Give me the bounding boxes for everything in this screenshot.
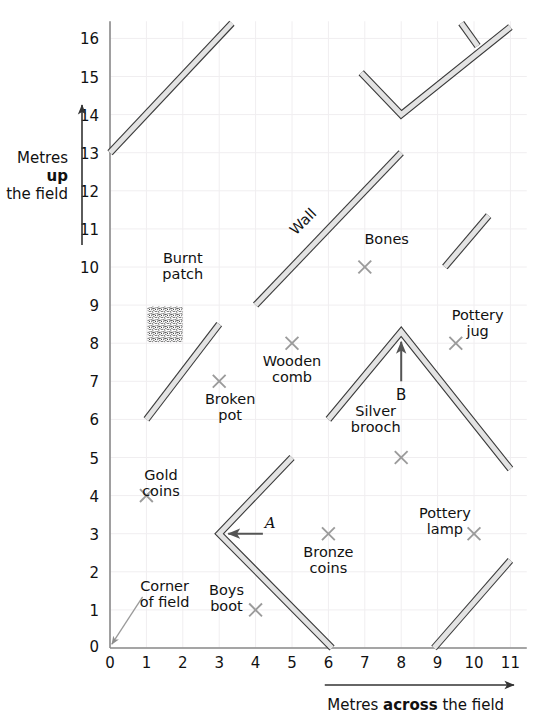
find-label: Wooden bbox=[263, 353, 322, 369]
x-tick-label: 4 bbox=[251, 654, 261, 672]
y-origin-label: 0 bbox=[89, 638, 99, 656]
find-label: pot bbox=[218, 407, 242, 423]
x-tick-label: 6 bbox=[324, 654, 334, 672]
find-label: Boys bbox=[209, 582, 244, 598]
find-pottery-lamp: Potterylamp bbox=[419, 505, 480, 540]
wall-bottom-right-fill bbox=[434, 560, 510, 648]
find-label: Pottery bbox=[452, 307, 504, 323]
find-label: coins bbox=[142, 483, 180, 499]
find-bronze-coins: Bronzecoins bbox=[303, 527, 353, 575]
find-silver-brooch: Silverbrooch bbox=[351, 403, 408, 464]
wall-small-top bbox=[461, 23, 477, 46]
y-tick-label: 6 bbox=[89, 411, 99, 429]
x-tick-label: 11 bbox=[501, 654, 520, 672]
wall-vee-top-outline bbox=[361, 27, 510, 115]
x-axis-caption-text: Metres across the field bbox=[327, 696, 504, 714]
find-label: Broken bbox=[205, 391, 255, 407]
y-tick-label: 4 bbox=[89, 488, 99, 506]
find-label: coins bbox=[310, 560, 348, 576]
corner-of-field: Cornerof field bbox=[112, 578, 190, 644]
y-axis-caption: Metresupthe field bbox=[6, 105, 82, 245]
y-axis-caption-line: up bbox=[47, 167, 69, 185]
find-label: boot bbox=[210, 598, 243, 614]
find-label: Burnt bbox=[163, 250, 203, 266]
y-axis-caption-line: Metres bbox=[17, 149, 68, 167]
wall-bottom-right bbox=[434, 560, 510, 648]
x-tick-label: 5 bbox=[287, 654, 297, 672]
y-tick-label: 1 bbox=[89, 602, 99, 620]
marker-label-A: A bbox=[263, 514, 276, 532]
x-tick-label: 1 bbox=[142, 654, 152, 672]
marker-label-B: B bbox=[396, 386, 406, 404]
find-label: Bronze bbox=[303, 544, 353, 560]
find-label: Pottery bbox=[419, 505, 471, 521]
y-tick-label: 3 bbox=[89, 526, 99, 544]
find-burnt-patch: Burntpatch bbox=[148, 250, 204, 342]
x-tick-label: 10 bbox=[464, 654, 483, 672]
marker-B: B bbox=[396, 342, 406, 405]
y-tick-label: 15 bbox=[80, 69, 99, 87]
point-markers: AB bbox=[228, 342, 406, 534]
field-plan-figure: 01234567891011123456789101112131415160Me… bbox=[0, 0, 559, 727]
annotation-label: Corner bbox=[140, 578, 189, 594]
annotations: Cornerof field bbox=[112, 578, 190, 644]
x-tick-label: 2 bbox=[178, 654, 188, 672]
burnt-patch-area bbox=[148, 306, 183, 342]
y-tick-label: 5 bbox=[89, 450, 99, 468]
x-tick-label: 0 bbox=[105, 654, 115, 672]
wall-right-upper bbox=[445, 216, 489, 267]
y-tick-label: 7 bbox=[89, 373, 99, 391]
find-label: patch bbox=[162, 266, 203, 282]
corner-pointer-arrow bbox=[112, 597, 143, 644]
find-label: Silver bbox=[355, 403, 396, 419]
x-tick-label: 9 bbox=[433, 654, 443, 672]
wall-small-top-fill bbox=[461, 23, 477, 46]
find-boys-boot: Boysboot bbox=[209, 582, 262, 617]
annotation-label: of field bbox=[140, 594, 190, 610]
find-label: brooch bbox=[351, 419, 401, 435]
find-label: Bones bbox=[364, 231, 408, 247]
find-gold-coins: Goldcoins bbox=[140, 467, 180, 502]
wall-vee-B-fill bbox=[328, 332, 510, 469]
y-tick-label: 10 bbox=[80, 259, 99, 277]
y-tick-label: 9 bbox=[89, 297, 99, 315]
find-label: Gold bbox=[144, 467, 177, 483]
x-tick-label: 7 bbox=[360, 654, 370, 672]
wall-top-left-fill bbox=[110, 23, 232, 153]
y-tick-label: 16 bbox=[80, 30, 99, 48]
x-axis-tick-labels: 01234567891011 bbox=[105, 654, 520, 672]
field-plan-svg: 01234567891011123456789101112131415160Me… bbox=[0, 0, 559, 727]
y-tick-label: 2 bbox=[89, 564, 99, 582]
x-tick-label: 3 bbox=[214, 654, 224, 672]
finds: BurntpatchBrokenpotGoldcoinsBoysbootWood… bbox=[140, 231, 504, 616]
x-axis-caption: Metres across the field bbox=[325, 685, 514, 714]
y-tick-label: 8 bbox=[89, 335, 99, 353]
wall-top-left bbox=[110, 23, 232, 153]
y-axis-caption-line: the field bbox=[6, 185, 68, 203]
find-broken-pot: Brokenpot bbox=[205, 375, 255, 423]
wall-vee-top bbox=[361, 27, 510, 115]
find-wooden-comb: Woodencomb bbox=[263, 337, 322, 385]
find-label: jug bbox=[465, 323, 488, 339]
wall-vee-top-fill bbox=[361, 27, 510, 115]
find-label: lamp bbox=[427, 521, 463, 537]
wall-vee-B bbox=[328, 332, 510, 469]
x-tick-label: 8 bbox=[396, 654, 406, 672]
wall-right-upper-fill bbox=[445, 216, 489, 267]
find-label: comb bbox=[272, 369, 312, 385]
